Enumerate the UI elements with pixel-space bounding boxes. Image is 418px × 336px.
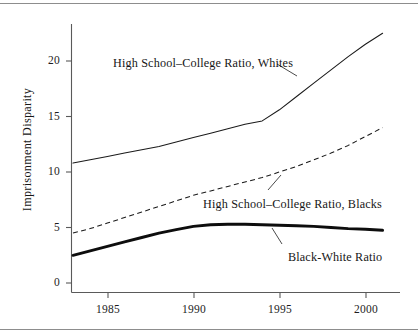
y-axis-title: Imprisonment Disparity [20, 60, 35, 240]
leader-line-bwratio [272, 228, 282, 244]
y-tick-label-20: 20 [36, 54, 60, 66]
series-line-whites [73, 33, 383, 163]
figure-container: Imprisonment Disparity 0 5 10 15 20 1985… [0, 0, 418, 336]
leader-line-blacks [268, 175, 281, 190]
x-tick-label-1995: 1995 [256, 303, 304, 315]
plot-area [0, 0, 418, 336]
y-tick-label-0: 0 [36, 276, 60, 288]
x-tick-label-2000: 2000 [342, 303, 390, 315]
y-tick-label-15: 15 [36, 110, 60, 122]
series-annotation-blacks: High School–College Ratio, Blacks [203, 197, 382, 212]
y-tick-label-10: 10 [36, 165, 60, 177]
series-annotation-whites: High School–College Ratio, Whites [113, 56, 293, 71]
y-tick-label-5: 5 [36, 221, 60, 233]
x-tick-label-1990: 1990 [170, 303, 218, 315]
x-tick-marks [108, 293, 366, 299]
x-tick-label-1985: 1985 [84, 303, 132, 315]
series-line-blacks [73, 128, 383, 234]
y-tick-marks [66, 61, 72, 283]
series-annotation-black-white-ratio: Black-White Ratio [288, 250, 382, 265]
